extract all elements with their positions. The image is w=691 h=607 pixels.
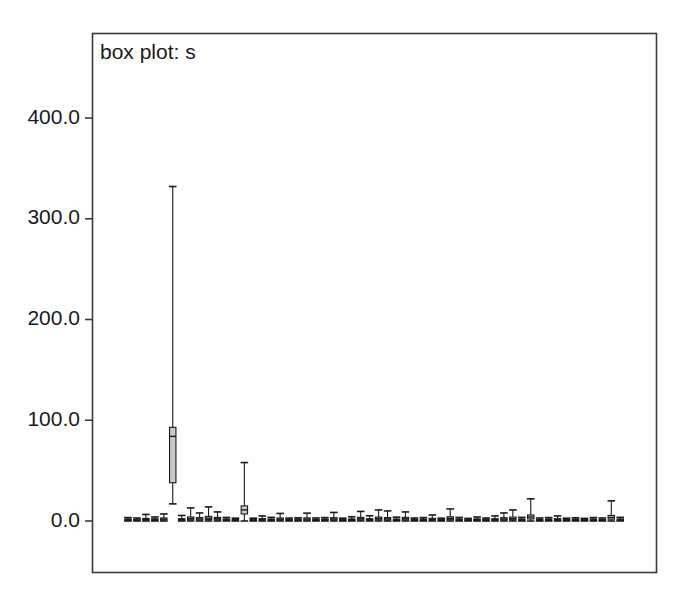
y-tick-label: 400.0 <box>27 105 80 128</box>
box-plot-item <box>267 517 275 521</box>
box-plot-item <box>536 518 544 521</box>
box-plot-item <box>482 518 490 521</box>
box-plot-item <box>285 518 293 521</box>
y-tick-label: 0.0 <box>51 508 80 531</box>
box-plot-item <box>420 518 428 521</box>
box-plot-item <box>294 518 302 521</box>
box-plot-item <box>518 517 526 521</box>
box-plot-item <box>616 517 624 521</box>
y-tick-label: 300.0 <box>27 205 80 228</box>
box-plot-item <box>232 518 240 521</box>
box-plot-figure: 0.0100.0200.0300.0400.0 box plot: s <box>0 0 691 607</box>
box-plot-item <box>581 518 589 521</box>
y-tick-label: 100.0 <box>27 407 80 430</box>
box-plot-item <box>455 517 463 521</box>
box-plot-item <box>437 518 445 521</box>
box-plot-item <box>339 518 347 521</box>
box-plot-item <box>223 517 231 521</box>
box-plot-item <box>554 516 562 521</box>
box-plot-item <box>572 518 580 521</box>
box-plot-item <box>411 518 419 521</box>
chart-title: box plot: s <box>100 40 196 63</box>
box-plot-item <box>258 516 266 521</box>
box-plot-item <box>590 518 598 521</box>
box-plot-item <box>599 518 607 521</box>
box-plot-item <box>348 517 356 521</box>
box-plot-item <box>321 518 329 521</box>
box-plot-item <box>393 517 401 521</box>
box-plot-item <box>464 518 472 521</box>
box-plot-item <box>133 518 141 521</box>
box-plot-item <box>366 516 374 521</box>
box-iqr <box>170 427 176 482</box>
box-plot-item <box>473 517 481 521</box>
box-plot-item <box>250 518 258 521</box>
box-plot-item <box>491 516 499 521</box>
box-plot-svg: 0.0100.0200.0300.0400.0 box plot: s <box>0 0 691 607</box>
box-plot-item <box>124 518 132 521</box>
figure-background <box>0 0 691 607</box>
box-plot-item <box>545 518 553 521</box>
box-plot-item <box>312 518 320 521</box>
box-plot-item <box>563 518 571 521</box>
y-tick-label: 200.0 <box>27 306 80 329</box>
box-plot-item <box>151 517 159 521</box>
